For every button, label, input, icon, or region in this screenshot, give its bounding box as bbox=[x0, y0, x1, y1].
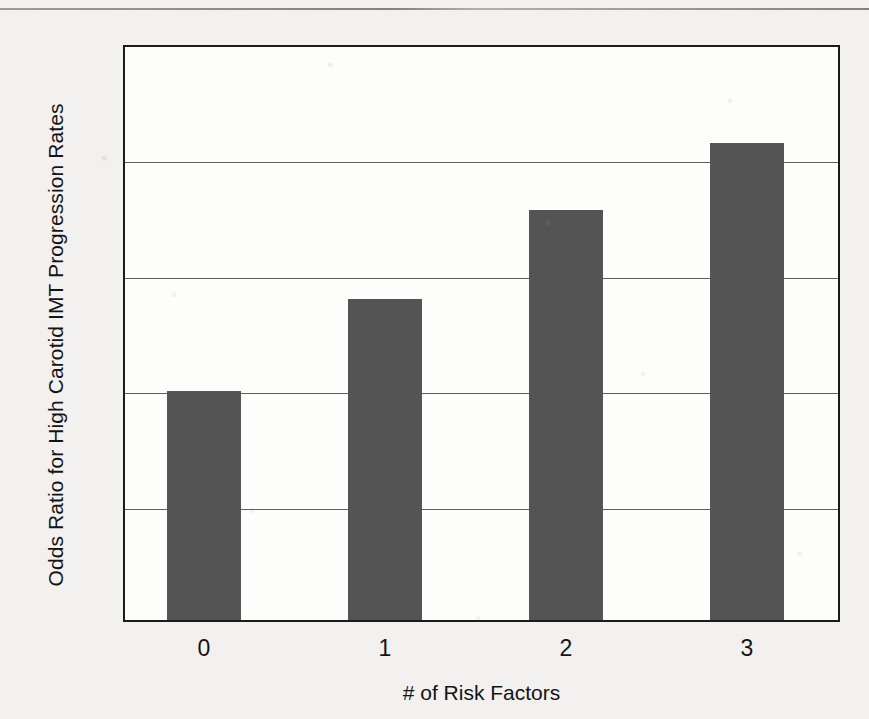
bar-risk-factor-0[interactable] bbox=[167, 391, 241, 620]
bar-risk-factor-3[interactable] bbox=[710, 143, 784, 620]
bar-risk-factor-1[interactable] bbox=[348, 299, 422, 620]
x-tick-label-2: 2 bbox=[506, 635, 626, 662]
x-tick-label-3: 3 bbox=[687, 635, 807, 662]
y-axis-label: Odds Ratio for High Carotid IMT Progress… bbox=[44, 45, 68, 645]
x-axis-label: # of Risk Factors bbox=[123, 681, 840, 705]
bar-risk-factor-2[interactable] bbox=[529, 210, 603, 620]
x-tick-label-0: 0 bbox=[144, 635, 264, 662]
plot-area: 2.5 2 1.5 1 0.5 0 0 1 2 3 bbox=[123, 45, 840, 622]
x-tick-label-1: 1 bbox=[325, 635, 445, 662]
bar-chart-figure: Odds Ratio for High Carotid IMT Progress… bbox=[0, 0, 869, 719]
